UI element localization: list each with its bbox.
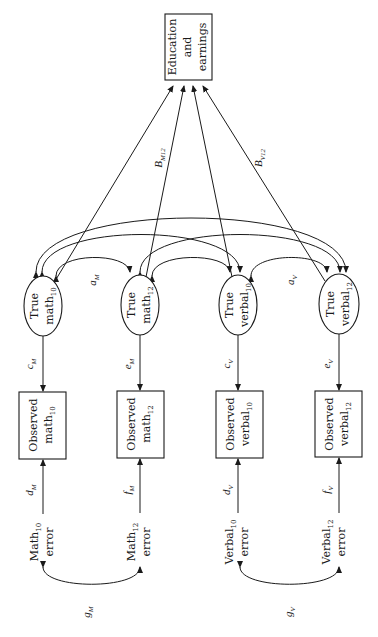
- observed-verbal10-node: Observed verbal10: [216, 391, 263, 458]
- label-e-v: eV: [320, 359, 335, 369]
- error-verbal10-label: Verbal10 error: [223, 520, 251, 566]
- label-e-m: eM: [121, 357, 136, 369]
- cov-math10-verbal12: [36, 218, 346, 272]
- observed-label-line1: Observed: [224, 397, 237, 450]
- latent-label-line1: True: [223, 292, 236, 318]
- svg-text:Math10: Math10: [28, 523, 43, 561]
- cov-error-verbal: [240, 567, 339, 584]
- arrow-verbal12-to-outcome: [203, 86, 325, 281]
- label-f-m: fM: [121, 484, 136, 494]
- label-a-v: aV: [284, 274, 299, 285]
- error-math12-label: Math12 error: [125, 523, 153, 561]
- latent-verbal12-node: True verbal12: [319, 274, 359, 334]
- svg-text:Verbal10: Verbal10: [223, 520, 238, 566]
- observed-label-line1: Observed: [27, 398, 40, 451]
- svg-text:error: error: [335, 527, 348, 557]
- observed-math10-node: Observed math10: [19, 392, 66, 459]
- loading-arrows: [43, 334, 339, 391]
- observed-label-line1: Observed: [323, 397, 336, 450]
- cov-math12-verbal12: [140, 235, 340, 273]
- label-f-v: fV: [320, 486, 335, 494]
- observed-math12-node: Observed math12: [117, 391, 164, 458]
- path-diagram: Education and earnings BM12 BV12 aM aV T…: [0, 0, 378, 637]
- observed-label-line1: Observed: [125, 397, 138, 450]
- error-verbal12-label: Verbal12 error: [320, 520, 348, 566]
- label-beta-m12: BM12: [152, 148, 167, 168]
- cov-error-math: [43, 567, 140, 584]
- label-d-m: dM: [23, 483, 38, 496]
- svg-text:error: error: [43, 527, 56, 557]
- latent-verbal10-node: True verbal10: [219, 275, 257, 335]
- outcome-line3: earnings: [196, 22, 209, 71]
- error-math10-label: Math10 error: [28, 523, 56, 561]
- latent-label-line1: True: [324, 291, 337, 317]
- label-c-v: cV: [220, 359, 235, 369]
- label-c-m: cM: [23, 357, 38, 369]
- svg-text:Verbal12: Verbal12: [320, 520, 335, 566]
- label-g-v: gV: [282, 606, 297, 617]
- latent-label-line1: True: [28, 293, 41, 319]
- cov-math12-verbal10: [152, 257, 230, 276]
- outcome-line1: Education: [166, 19, 179, 76]
- education-earnings-node: Education and earnings: [165, 14, 212, 80]
- label-a-m: aM: [86, 273, 101, 286]
- observed-verbal12-node: Observed verbal12: [315, 391, 362, 457]
- error-arrows: [43, 458, 339, 514]
- outcome-line2: and: [181, 37, 194, 58]
- svg-text:Math12: Math12: [125, 523, 140, 561]
- svg-text:error: error: [140, 527, 153, 557]
- arrow-math12-to-outcome: [146, 86, 184, 277]
- latent-label-line1: True: [125, 292, 138, 318]
- svg-text:error: error: [238, 527, 251, 557]
- latent-math12-node: True math12: [121, 275, 159, 335]
- arrow-verbal10-to-outcome: [193, 86, 232, 277]
- label-g-m: gM: [80, 605, 95, 618]
- label-beta-v12: BV12: [252, 148, 267, 167]
- label-d-v: dV: [220, 484, 235, 495]
- outcome-arrows: [55, 86, 325, 281]
- latent-math10-node: True math10: [24, 276, 62, 336]
- latent-covariances: [36, 218, 346, 276]
- arrow-math10-to-outcome: [55, 86, 173, 281]
